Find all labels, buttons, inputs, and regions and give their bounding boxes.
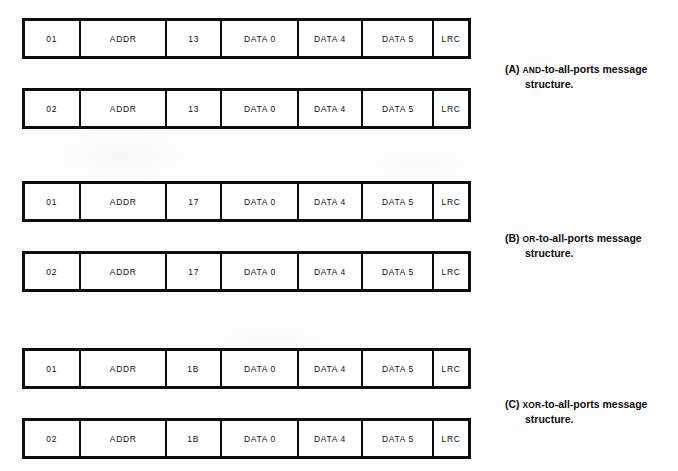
caption-line-secondary: structure. [505,412,673,426]
field-lrc: LRC [434,91,468,126]
field-lrc: LRC [434,184,468,219]
field-data-4: DATA 4 [299,351,363,386]
field-label: LRC [442,197,461,207]
field-label: DATA 0 [244,104,276,114]
field-label: 02 [47,104,58,114]
caption-line-primary: (C) XOR-to-all-ports message [505,397,673,412]
field-data-0: DATA 0 [222,184,299,219]
field-label: 1B [188,434,200,444]
field-label: ADDR [110,34,137,44]
field-label: 01 [47,197,58,207]
message-bar: 01 ADDR 13 DATA 0 DATA 4 DATA 5 LRC [22,18,471,59]
field-data-5: DATA 5 [363,421,434,456]
figure-caption-c: (C) XOR-to-all-ports message structure. [505,397,673,426]
message-bar: 02 ADDR 1B DATA 0 DATA 4 DATA 5 LRC [22,418,471,459]
caption-label: (A) [505,63,520,75]
field-label: DATA 5 [382,104,414,114]
field-address: ADDR [81,184,167,219]
field-data-0: DATA 0 [222,91,299,126]
message-structure-diagram: 01 ADDR 13 DATA 0 DATA 4 DATA 5 LRC 02 A… [0,0,678,471]
field-label: LRC [442,364,461,374]
field-label: DATA 4 [314,364,346,374]
field-label: DATA 0 [244,267,276,277]
field-label: DATA 5 [382,364,414,374]
figure-caption-b: (B) OR-to-all-ports message structure. [505,231,673,260]
field-label: DATA 0 [244,34,276,44]
field-label: LRC [442,34,461,44]
field-label: 17 [188,197,199,207]
field-data-5: DATA 5 [363,184,434,219]
field-data-0: DATA 0 [222,421,299,456]
field-label: 01 [47,364,58,374]
caption-rest: -to-all-ports message [541,63,647,75]
message-bar: 01 ADDR 17 DATA 0 DATA 4 DATA 5 LRC [22,181,471,222]
field-data-4: DATA 4 [299,21,363,56]
figure-caption-a: (A) AND-to-all-ports message structure. [505,62,673,91]
field-label: LRC [442,104,461,114]
caption-label: (C) [505,398,520,410]
field-label: DATA 4 [314,104,346,114]
caption-operator: XOR [523,400,542,410]
caption-operator: OR [523,234,536,244]
field-data-4: DATA 4 [299,91,363,126]
field-label: DATA 4 [314,267,346,277]
field-label: DATA 0 [244,364,276,374]
field-label: 01 [47,34,58,44]
field-command-code: 1B [167,421,222,456]
field-label: DATA 0 [244,197,276,207]
field-data-5: DATA 5 [363,254,434,289]
field-lrc: LRC [434,254,468,289]
caption-operator: AND [523,65,542,75]
message-bar: 01 ADDR 1B DATA 0 DATA 4 DATA 5 LRC [22,348,471,389]
field-label: ADDR [110,364,137,374]
field-address: ADDR [81,21,167,56]
caption-rest: -to-all-ports message [535,232,641,244]
caption-rest: -to-all-ports message [541,398,647,410]
field-label: DATA 5 [382,197,414,207]
field-data-5: DATA 5 [363,351,434,386]
caption-label: (B) [505,232,520,244]
field-label: ADDR [110,197,137,207]
field-label: DATA 5 [382,267,414,277]
field-command-code: 13 [167,91,222,126]
field-label: DATA 5 [382,34,414,44]
field-start-byte: 01 [25,351,81,386]
field-start-byte: 02 [25,254,81,289]
field-start-byte: 01 [25,184,81,219]
field-command-code: 17 [167,254,222,289]
field-command-code: 1B [167,351,222,386]
field-label: DATA 4 [314,434,346,444]
field-data-5: DATA 5 [363,91,434,126]
field-lrc: LRC [434,351,468,386]
field-label: DATA 4 [314,34,346,44]
field-data-4: DATA 4 [299,421,363,456]
field-command-code: 17 [167,184,222,219]
field-data-5: DATA 5 [363,21,434,56]
field-label: 02 [47,434,58,444]
field-data-4: DATA 4 [299,254,363,289]
field-address: ADDR [81,351,167,386]
message-bar: 02 ADDR 13 DATA 0 DATA 4 DATA 5 LRC [22,88,471,129]
field-label: DATA 0 [244,434,276,444]
field-label: 17 [188,267,199,277]
field-data-0: DATA 0 [222,254,299,289]
field-start-byte: 02 [25,91,81,126]
field-address: ADDR [81,254,167,289]
field-label: ADDR [110,104,137,114]
field-data-0: DATA 0 [222,351,299,386]
field-label: 1B [188,364,200,374]
caption-line-primary: (B) OR-to-all-ports message [505,231,673,246]
field-label: 13 [188,34,199,44]
caption-line-secondary: structure. [505,246,673,260]
caption-line-secondary: structure. [505,77,673,91]
message-bar: 02 ADDR 17 DATA 0 DATA 4 DATA 5 LRC [22,251,471,292]
field-lrc: LRC [434,21,468,56]
field-lrc: LRC [434,421,468,456]
field-label: DATA 5 [382,434,414,444]
field-data-4: DATA 4 [299,184,363,219]
field-label: ADDR [110,267,137,277]
field-command-code: 13 [167,21,222,56]
field-label: LRC [442,267,461,277]
field-start-byte: 02 [25,421,81,456]
field-address: ADDR [81,91,167,126]
